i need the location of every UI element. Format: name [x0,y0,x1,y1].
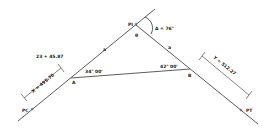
y-dimension-label: Y = 512.27 [212,54,237,76]
curve-diagram: PI θ Δ = 76° 23 + 45.87 34° 00' 42° 00' … [0,0,274,133]
diagram-svg: PI θ Δ = 76° 23 + 45.87 34° 00' 42° 00' … [0,0,274,133]
pt-label: PT [246,108,253,113]
side-b-label: a [168,45,171,50]
point-b-label: B [188,73,192,78]
angle-a-label: 34° 00' [85,69,103,74]
x-dimension-tick-left [21,94,27,101]
forward-tangent-line [136,25,258,124]
x-dimension-label: X = 495.70 [30,72,55,93]
delta-label: Δ = 76° [155,26,174,31]
delta-arc [145,17,153,34]
y-dimension-tick-left [199,52,205,60]
back-tangent-line [18,9,155,121]
vertex-theta-label: θ [135,33,138,38]
pi-label: PI [128,22,133,27]
angle-b-label: 42° 00' [160,64,178,69]
station-label: 23 + 45.87 [36,54,63,59]
pc-label: PC [22,108,29,113]
side-a-label: a [103,47,106,52]
x-dimension-tick-right [58,64,64,72]
point-a-label: A [72,80,76,85]
y-dimension-tick-right [246,91,252,99]
